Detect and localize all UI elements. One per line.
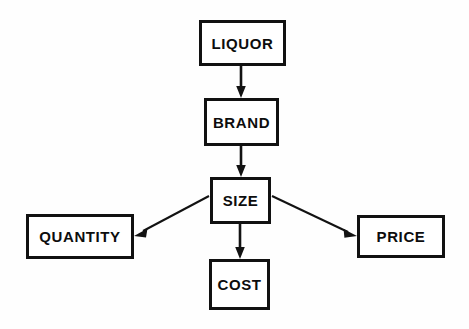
node-liquor-label: LIQUOR [212,36,274,51]
edge-size-to-cost [235,224,245,259]
node-price[interactable]: PRICE [357,215,445,258]
node-liquor[interactable]: LIQUOR [199,20,286,66]
node-price-label: PRICE [377,229,426,244]
node-quantity-label: QUANTITY [39,229,120,244]
node-brand-label: BRAND [213,115,270,130]
edge-brand-to-size [236,146,246,177]
node-size-label: SIZE [223,193,259,208]
edge-liquor-to-brand [236,66,246,98]
node-cost-label: COST [217,277,261,292]
node-quantity[interactable]: QUANTITY [26,214,134,259]
node-brand[interactable]: BRAND [204,98,279,146]
edge-size-to-quantity [134,196,209,237]
node-cost[interactable]: COST [209,259,270,310]
diagram-canvas: LIQUOR BRAND SIZE QUANTITY PRICE COST [0,0,469,329]
node-size[interactable]: SIZE [210,177,271,224]
edge-size-to-price [272,196,357,238]
